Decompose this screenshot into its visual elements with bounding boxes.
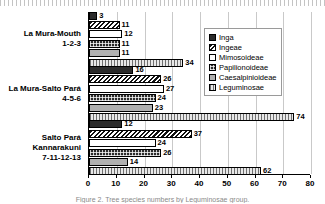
category-label-line: 4-5-6 <box>0 94 81 104</box>
legend-label: Mimosoideae <box>219 53 264 62</box>
bar-papilionoideae <box>89 40 120 48</box>
category-label-line: 1-2-3 <box>0 39 81 49</box>
bar-ingeae <box>89 130 192 138</box>
bar-papilionoideae <box>89 149 161 157</box>
legend-item-inga: Inga <box>209 32 277 42</box>
bar-row: 14 <box>89 158 311 166</box>
bar-inga <box>89 66 133 74</box>
bar-value-label: 26 <box>161 75 171 83</box>
category-label-line: Kannarakuni <box>0 143 81 153</box>
x-axis-tick-label: 0 <box>86 179 90 188</box>
x-axis-tick <box>171 175 172 178</box>
bar-value-label: 16 <box>133 66 143 74</box>
legend-label: Ingeae <box>219 43 242 52</box>
bar-mimosoideae <box>89 30 122 38</box>
legend-item-mimosoideae: Mimosoideae <box>209 52 277 62</box>
bar-caesalpinioideae <box>89 49 120 57</box>
legend-label: Inga <box>219 33 234 42</box>
x-axis-tick-label: 40 <box>195 179 204 188</box>
bar-row: 23 <box>89 104 311 112</box>
legend-item-ingeae: Ingeae <box>209 42 277 52</box>
bar-value-label: 24 <box>156 94 166 102</box>
x-axis-tick <box>282 175 283 178</box>
bar-row: 24 <box>89 139 311 147</box>
category-label: La Mura-Salto Pará4-5-6 <box>0 84 86 104</box>
legend-label: Caesalpinioideae <box>219 73 277 82</box>
figure-caption: Figure 2. Tree species numbers by Legumi… <box>0 196 325 203</box>
x-axis-tick <box>144 175 145 178</box>
x-axis-tick-label: 10 <box>111 179 120 188</box>
x-axis-tick <box>255 175 256 178</box>
x-axis-tick <box>227 175 228 178</box>
legend-swatch-icon <box>209 64 216 71</box>
bar-row: 26 <box>89 149 311 157</box>
legend-swatch-icon <box>209 54 216 61</box>
figure-container: La Mura-Mouth1-2-3La Mura-Salto Pará4-5-… <box>0 0 325 204</box>
legend-label: Papilionoideae <box>219 63 268 72</box>
x-axis-tick-label: 60 <box>250 179 259 188</box>
bar-value-label: 26 <box>161 149 171 157</box>
bar-mimosoideae <box>89 139 156 147</box>
bar-row: 37 <box>89 130 311 138</box>
x-axis-tick-label: 20 <box>139 179 148 188</box>
bar-ingeae <box>89 21 120 29</box>
legend-item-papilionoideae: Papilionoideae <box>209 62 277 72</box>
legend-item-leguminosae: Leguminosae <box>209 82 277 92</box>
scan-edge-artifact <box>0 0 325 6</box>
bar-mimosoideae <box>89 85 164 93</box>
bar-ingeae <box>89 75 161 83</box>
category-label-line: La Mura-Salto Pará <box>0 84 81 94</box>
bar-value-label: 14 <box>128 158 138 166</box>
bar-inga <box>89 120 122 128</box>
bar-value-label: 3 <box>97 12 103 20</box>
bar-caesalpinioideae <box>89 158 128 166</box>
bar-caesalpinioideae <box>89 104 153 112</box>
category-label-line: Salto Pará <box>0 133 81 143</box>
category-label: Salto ParáKannarakuni7-11-12-13 <box>0 133 86 163</box>
x-axis-tick <box>199 175 200 178</box>
x-axis-tick <box>116 175 117 178</box>
legend-swatch-icon <box>209 74 216 81</box>
bar-value-label: 12 <box>122 30 132 38</box>
bar-value-label: 27 <box>164 85 174 93</box>
x-axis-tick-label: 70 <box>278 179 287 188</box>
x-axis-tick <box>310 175 311 178</box>
x-axis-tick-label: 80 <box>306 179 315 188</box>
bar-value-label: 11 <box>120 21 130 29</box>
legend-swatch-icon <box>209 84 216 91</box>
legend-swatch-icon <box>209 44 216 51</box>
bar-inga <box>89 12 97 20</box>
legend-label: Leguminosae <box>219 83 264 92</box>
x-axis-tick-label: 30 <box>167 179 176 188</box>
bar-row: 3 <box>89 12 311 20</box>
legend-swatch-icon <box>209 34 216 41</box>
bar-value-label: 11 <box>120 40 130 48</box>
category-label-line: La Mura-Mouth <box>0 29 81 39</box>
x-axis-tick <box>88 175 89 178</box>
bar-value-label: 37 <box>192 130 202 138</box>
bar-value-label: 23 <box>153 104 163 112</box>
x-axis: 01020304050607080 <box>88 175 310 193</box>
category-label: La Mura-Mouth1-2-3 <box>0 29 86 49</box>
category-label-line: 7-11-12-13 <box>0 153 81 163</box>
legend: IngaIngeaeMimosoideaePapilionoideaeCaesa… <box>204 28 282 96</box>
bar-value-label: 12 <box>122 120 132 128</box>
bar-row: 12 <box>89 120 311 128</box>
x-axis-tick-label: 50 <box>222 179 231 188</box>
bar-value-label: 24 <box>156 139 166 147</box>
bar-value-label: 11 <box>120 49 130 57</box>
legend-item-caesalpinioideae: Caesalpinioideae <box>209 72 277 82</box>
bar-papilionoideae <box>89 94 156 102</box>
gridline <box>311 12 312 174</box>
